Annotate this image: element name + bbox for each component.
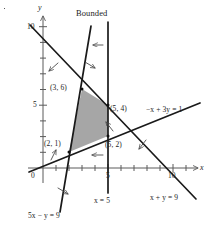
figure-title: Bounded	[76, 9, 107, 18]
vertex-label-3-6: (3, 6)	[50, 84, 67, 92]
coordinate-plot-svg	[0, 0, 210, 228]
x-tick-label-5: 5	[106, 172, 110, 180]
line-label-5x-minus-y: 5x − y = 9	[28, 212, 60, 220]
x-tick-label-0: 0	[31, 172, 35, 180]
line-label-x-plus-y: x + y = 9	[150, 194, 178, 202]
x-tick-label-10: 10	[168, 172, 176, 180]
y-tick-label-5: 5	[33, 101, 37, 109]
y-axis-label: y	[38, 4, 42, 12]
scan-speck	[4, 8, 5, 9]
bounded-region-graph-figure: Bounded y x 10 5 0 5 10 (3, 6) (5, 4) (5…	[0, 0, 210, 228]
vertex-label-5-2: (5, 2)	[105, 141, 122, 149]
y-tick-label-10: 10	[27, 23, 35, 31]
line-label-neg-x-plus-3y: −x + 3y = 1	[146, 106, 182, 114]
vertex-label-5-4: (5, 4)	[110, 105, 127, 113]
line-label-x-equals-5: x = 5	[94, 197, 110, 205]
vertex-label-2-1: (2, 1)	[44, 140, 61, 148]
x-axis-label: x	[200, 164, 204, 172]
